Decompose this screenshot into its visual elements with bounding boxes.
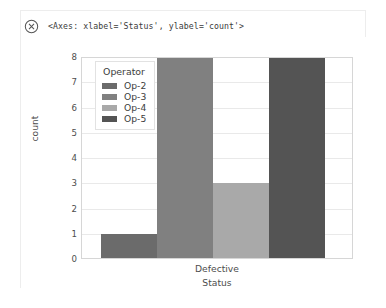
legend-swatch-op-4 <box>102 105 117 111</box>
y-axis-label: count <box>29 94 40 164</box>
bar-op-4[interactable] <box>213 183 269 259</box>
axes-repr-text: <Axes: xlabel='Status', ylabel='count'> <box>48 21 244 31</box>
legend-item-op-4[interactable]: Op-4 <box>102 102 146 113</box>
bar-op-2[interactable] <box>101 234 157 259</box>
plot-area: Operator Op-2 Op-3 Op-4 Op-5 <box>81 57 353 259</box>
axis-spine-top <box>81 57 353 58</box>
legend-item-op-3[interactable]: Op-3 <box>102 91 146 102</box>
legend-swatch-op-2 <box>102 83 117 89</box>
legend-swatch-op-3 <box>102 94 117 100</box>
x-axis-label: Status <box>81 277 353 288</box>
legend-swatch-op-5 <box>102 116 117 122</box>
y-tick-8: 8 <box>55 53 77 62</box>
axis-spine-right <box>352 57 353 259</box>
bar-op-5[interactable] <box>269 57 325 259</box>
axis-spine-left <box>81 57 82 259</box>
legend-item-op-2[interactable]: Op-2 <box>102 80 146 91</box>
matplotlib-figure: 0 1 2 3 4 5 6 7 8 count <box>21 37 367 289</box>
legend-label-op-3: Op-3 <box>124 92 146 101</box>
axis-spine-bottom <box>81 258 353 259</box>
y-tick-4: 4 <box>55 154 77 163</box>
legend-label-op-5: Op-5 <box>124 114 146 123</box>
legend-label-op-2: Op-2 <box>124 81 146 90</box>
y-tick-0: 0 <box>55 255 77 264</box>
y-axis-tick-labels: 0 1 2 3 4 5 6 7 8 <box>53 57 77 259</box>
y-tick-7: 7 <box>55 78 77 87</box>
output-cell-card: <Axes: xlabel='Status', ylabel='count'> … <box>20 10 366 288</box>
legend-title: Operator <box>102 66 146 77</box>
bar-op-3[interactable] <box>157 57 213 259</box>
y-tick-3: 3 <box>55 179 77 188</box>
circle-x-icon[interactable] <box>24 19 39 34</box>
legend-item-op-5[interactable]: Op-5 <box>102 113 146 124</box>
legend-label-op-4: Op-4 <box>124 103 146 112</box>
legend: Operator Op-2 Op-3 Op-4 Op-5 <box>95 61 155 130</box>
y-tick-1: 1 <box>55 229 77 238</box>
y-tick-2: 2 <box>55 204 77 213</box>
y-tick-6: 6 <box>55 103 77 112</box>
y-tick-5: 5 <box>55 128 77 137</box>
x-axis-tick-label: Defective <box>81 263 353 274</box>
